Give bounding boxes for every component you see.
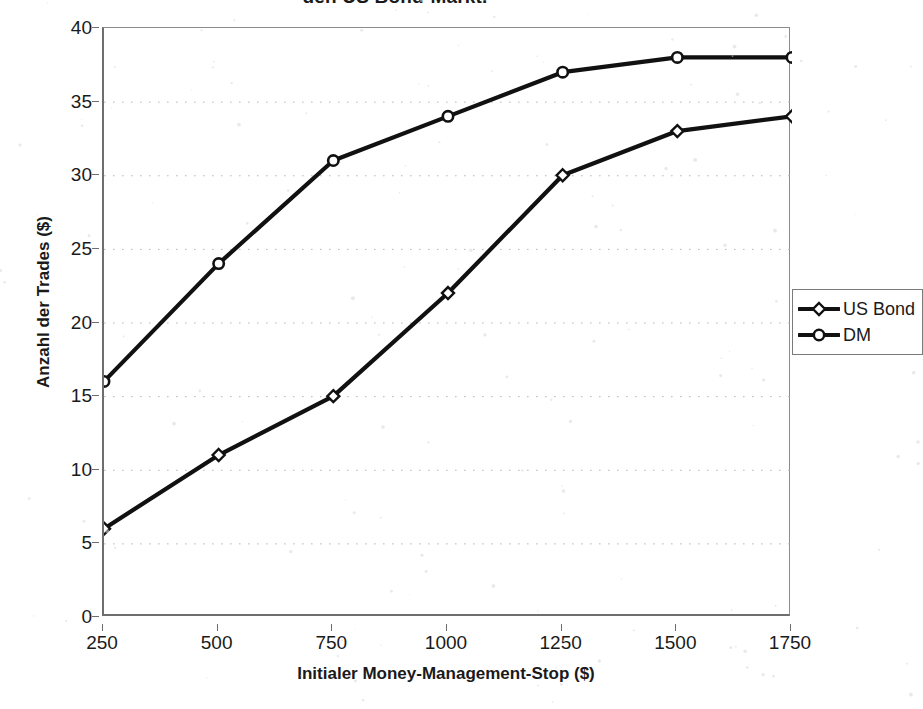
data-point: [443, 111, 453, 121]
x-tick-mark: [102, 624, 103, 631]
speckle: [878, 549, 880, 551]
speckle: [552, 701, 554, 703]
series-line: [104, 57, 792, 381]
x-tick-mark: [331, 624, 332, 631]
series-us-bond: [104, 110, 792, 534]
speckle: [588, 14, 589, 15]
x-tick-label: 750: [286, 633, 376, 652]
x-axis-title: Initialer Money-Management-Stop ($): [102, 664, 790, 684]
y-tick-label: 40: [36, 18, 92, 37]
speckle: [825, 175, 827, 177]
speckle: [3, 281, 6, 284]
y-tick-label: 25: [36, 239, 92, 258]
y-tick-mark: [92, 248, 99, 249]
y-tick-label: 20: [36, 313, 92, 332]
speckle: [912, 371, 916, 375]
speckle: [855, 214, 856, 215]
legend-diamond-marker-icon: [798, 299, 840, 319]
speckle: [854, 65, 857, 68]
x-tick-mark: [561, 624, 562, 631]
speckle: [598, 659, 601, 662]
y-tick-mark: [92, 174, 99, 175]
x-tick-mark: [217, 624, 218, 631]
data-point: [213, 258, 223, 268]
x-tick-label: 1500: [630, 633, 720, 652]
speckle: [856, 627, 859, 630]
data-point: [786, 110, 792, 122]
y-tick-mark: [92, 101, 99, 102]
speckle: [95, 465, 96, 466]
y-axis-tick-labels: 4035302520151050: [30, 27, 92, 616]
plot-canvas: [104, 28, 792, 617]
speckle: [427, 11, 429, 13]
chart-title: den US Bond-Markt.: [0, 0, 790, 8]
speckle: [233, 19, 235, 21]
x-tick-label: 1000: [401, 633, 491, 652]
x-axis-tick-labels: 2505007501000125015001750: [102, 624, 790, 652]
y-tick-label: 30: [36, 165, 92, 184]
x-tick-mark: [446, 624, 447, 631]
speckle: [916, 440, 919, 443]
legend-circle-marker-icon: [798, 325, 840, 345]
data-series-layer: [104, 52, 792, 534]
x-tick-label: 1250: [516, 633, 606, 652]
speckle: [337, 655, 339, 657]
speckle: [906, 663, 908, 665]
y-tick-mark: [92, 469, 99, 470]
y-tick-mark: [92, 616, 99, 617]
y-tick-label: 0: [36, 607, 92, 626]
plot-area: [102, 27, 790, 616]
data-point: [328, 155, 338, 165]
speckle: [493, 16, 495, 18]
data-point: [787, 52, 792, 62]
x-tick-mark: [675, 624, 676, 631]
speckle: [18, 143, 21, 146]
speckle: [828, 110, 830, 112]
data-point: [672, 52, 682, 62]
speckle: [910, 66, 912, 68]
speckle: [0, 269, 2, 272]
data-point: [104, 376, 109, 386]
x-tick-label: 250: [57, 633, 147, 652]
y-tick-mark: [92, 395, 99, 396]
y-tick-label: 10: [36, 460, 92, 479]
y-tick-mark: [92, 542, 99, 543]
series-line: [104, 116, 792, 528]
x-tick-label: 1750: [745, 633, 835, 652]
legend-label: US Bond: [843, 300, 915, 318]
speckle: [917, 462, 920, 465]
y-tick-mark: [92, 27, 99, 28]
data-point: [557, 67, 567, 77]
x-tick-label: 500: [172, 633, 262, 652]
legend-label: DM: [843, 326, 871, 344]
legend-item[interactable]: US Bond: [798, 296, 915, 322]
gridlines: [104, 102, 792, 544]
x-tick-mark: [790, 624, 791, 631]
speckle: [896, 455, 900, 459]
speckle: [885, 119, 887, 121]
speckle: [537, 684, 539, 686]
speckle: [800, 60, 803, 63]
series-dm: [104, 52, 792, 386]
y-tick-mark: [92, 322, 99, 323]
speckle: [362, 699, 364, 701]
y-tick-label: 15: [36, 386, 92, 405]
y-tick-label: 5: [36, 533, 92, 552]
speckle: [395, 9, 397, 11]
legend-item[interactable]: DM: [798, 322, 915, 348]
speckle: [909, 693, 913, 697]
y-tick-label: 35: [36, 92, 92, 111]
speckle: [755, 13, 759, 17]
data-point: [671, 125, 683, 137]
legend: US BondDM: [792, 289, 923, 355]
